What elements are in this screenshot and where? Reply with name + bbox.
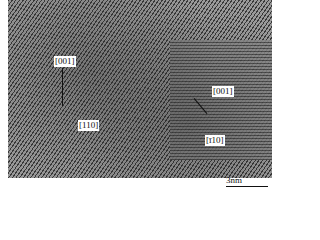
label-001-right: [001] (212, 86, 234, 97)
scale-bar (226, 186, 268, 187)
scale-bar-label: 3nm (226, 175, 242, 185)
arrow-001-left (62, 68, 63, 106)
label-110-right: [ī10] (205, 135, 225, 146)
label-110-left: [110] (78, 120, 99, 131)
label-001-left: [001] (54, 56, 76, 67)
